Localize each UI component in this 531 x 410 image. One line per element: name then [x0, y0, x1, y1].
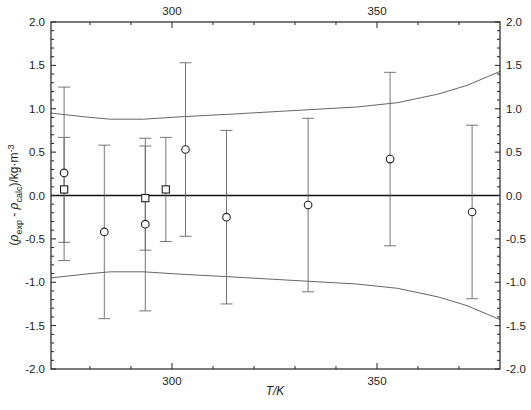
y-tick-label-right: 1.0 — [506, 103, 522, 115]
square-marker — [142, 195, 149, 202]
y-tick-label-right: 2.0 — [506, 16, 522, 28]
y-tick-label-left: -2.0 — [25, 363, 45, 375]
circle-marker — [60, 169, 68, 177]
residual-chart: -2.0-2.0-1.5-1.5-1.0-1.0-0.5-0.50.00.00.… — [0, 0, 531, 410]
circle-marker — [304, 201, 312, 209]
y-tick-label-left: -0.5 — [25, 233, 45, 245]
x-tick-label-top: 350 — [367, 5, 386, 17]
y-axis-label: (ρexp - ρcalc)/kg·m-3 — [6, 145, 24, 246]
x-tick-label-bottom: 300 — [162, 375, 181, 387]
y-tick-label-left: -1.0 — [25, 276, 45, 288]
y-tick-label-right: -0.5 — [506, 233, 526, 245]
square-marker — [162, 186, 169, 193]
y-tick-label-left: 0.5 — [29, 146, 45, 158]
square-marker — [61, 186, 68, 193]
data-markers — [60, 146, 476, 236]
circle-marker — [142, 220, 150, 228]
y-tick-label-left: 1.5 — [29, 59, 45, 71]
y-tick-label-right: -2.0 — [506, 363, 526, 375]
y-tick-label-right: -1.0 — [506, 276, 526, 288]
y-tick-label-right: 1.5 — [506, 59, 522, 71]
error-bars — [58, 63, 478, 319]
circle-marker — [386, 155, 394, 163]
y-tick-label-right: 0.5 — [506, 146, 522, 158]
y-tick-label-right: -1.5 — [506, 320, 526, 332]
circle-marker — [182, 146, 190, 154]
circle-marker — [468, 208, 476, 216]
x-tick-label-top: 300 — [162, 5, 181, 17]
circle-marker — [223, 213, 231, 221]
y-tick-label-left: 0.0 — [29, 190, 45, 202]
y-tick-label-left: 2.0 — [29, 16, 45, 28]
y-tick-label-left: -1.5 — [25, 320, 45, 332]
y-tick-label-right: 0.0 — [506, 190, 522, 202]
x-tick-label-bottom: 350 — [367, 375, 386, 387]
upper-uncertainty-line — [51, 71, 500, 119]
circle-marker — [101, 228, 109, 236]
lower-uncertainty-line — [51, 272, 500, 320]
x-axis-label: T/K — [266, 384, 286, 398]
y-tick-label-left: 1.0 — [29, 103, 45, 115]
